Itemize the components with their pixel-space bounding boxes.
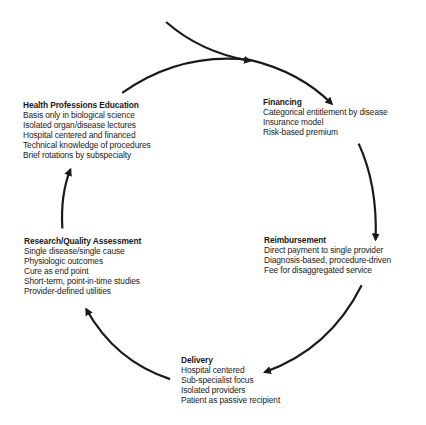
delivery-to-research-arrow bbox=[86, 309, 170, 379]
node-item: Patient as passive recipient bbox=[181, 395, 280, 405]
node-item: Cure as end point bbox=[24, 266, 141, 276]
node-item: Provider-defined utilities bbox=[24, 286, 141, 296]
node-item: Hospital centered and financed bbox=[23, 130, 151, 140]
node-title: Health Professions Education bbox=[23, 100, 151, 110]
node-title: Financing bbox=[263, 97, 388, 107]
node-delivery: Delivery Hospital centered Sub-specialis… bbox=[181, 355, 280, 405]
node-title: Delivery bbox=[181, 355, 280, 365]
node-research-quality-assessment: Research/Quality Assessment Single disea… bbox=[24, 236, 141, 296]
node-financing: Financing Categorical entitlement by dis… bbox=[263, 97, 388, 137]
node-item: Physiologic outcomes bbox=[24, 256, 141, 266]
node-item: Risk-based premium bbox=[263, 127, 388, 137]
node-item: Isolated providers bbox=[181, 385, 280, 395]
node-item: Diagnosis-based, procedure-driven bbox=[264, 255, 391, 265]
entry-arrow bbox=[166, 22, 250, 61]
node-item: Direct payment to single provider bbox=[264, 245, 391, 255]
node-item: Technical knowledge of procedures bbox=[23, 140, 151, 150]
financing-to-reimbursement-arrow bbox=[359, 144, 376, 240]
node-title: Research/Quality Assessment bbox=[24, 236, 141, 246]
node-item: Short-term, point-in-time studies bbox=[24, 276, 141, 286]
node-item: Hospital centered bbox=[181, 365, 280, 375]
node-item: Sub-specialist focus bbox=[181, 375, 280, 385]
node-item: Categorical entitlement by disease bbox=[263, 107, 388, 117]
node-item: Brief rotations by subspecialty bbox=[23, 150, 151, 160]
node-reimbursement: Reimbursement Direct payment to single p… bbox=[264, 235, 391, 275]
node-title: Reimbursement bbox=[264, 235, 391, 245]
node-item: Insurance model bbox=[263, 117, 388, 127]
node-health-professions-education: Health Professions Education Basis only … bbox=[23, 100, 151, 160]
research-to-education-arrow bbox=[62, 170, 70, 229]
node-item: Isolated organ/disease lectures bbox=[23, 120, 151, 130]
node-item: Single disease/single cause bbox=[24, 246, 141, 256]
node-item: Fee for disaggregated service bbox=[264, 265, 391, 275]
node-item: Basis only in biological science bbox=[23, 110, 151, 120]
